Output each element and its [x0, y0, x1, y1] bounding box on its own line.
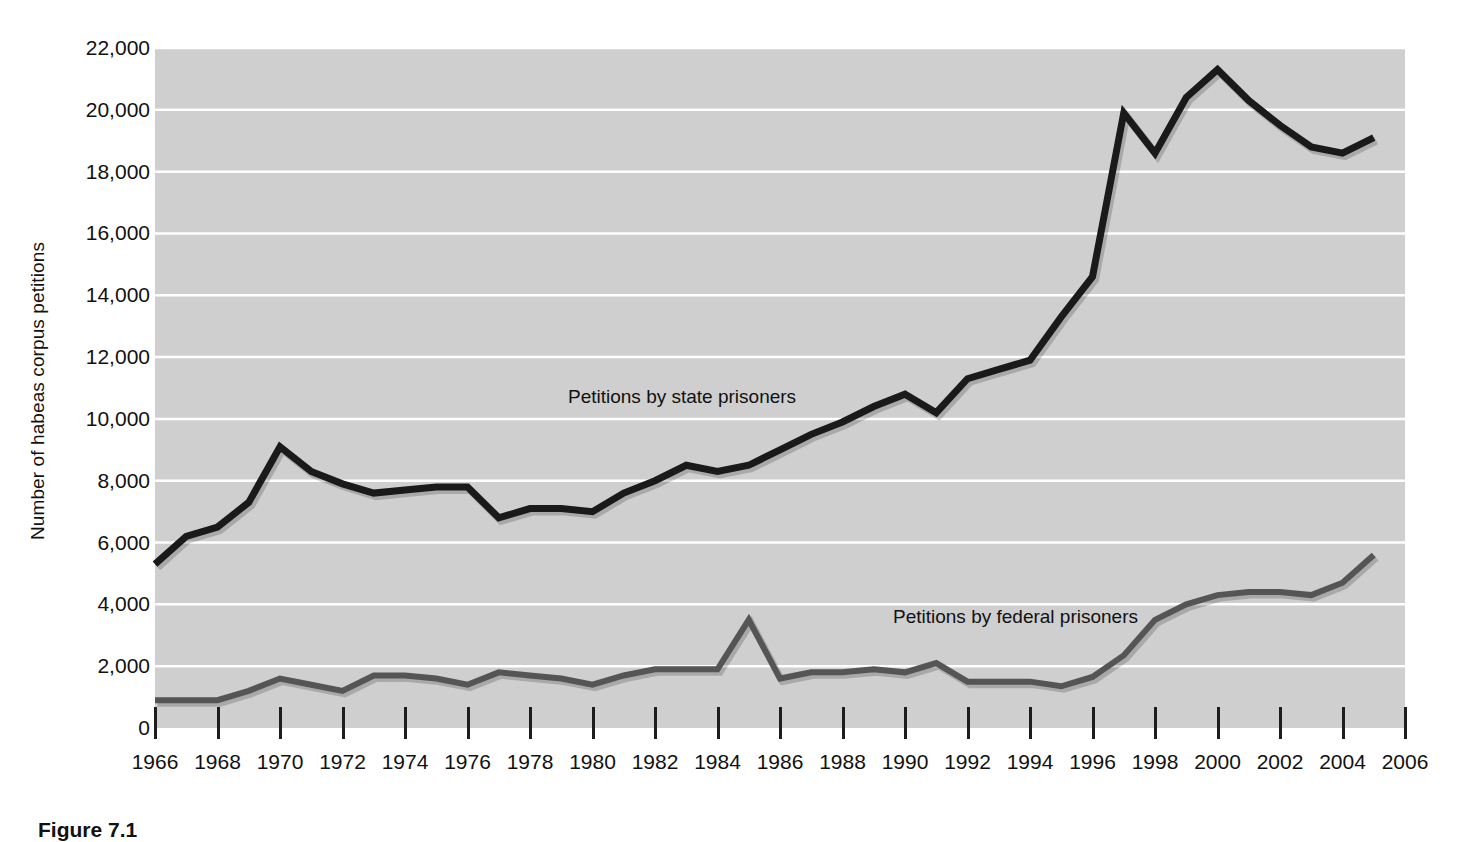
- x-axis-tick-label: 1980: [569, 750, 616, 774]
- x-axis-tick-label: 1990: [882, 750, 929, 774]
- x-axis-tick-label: 1982: [632, 750, 679, 774]
- x-axis-tick-label: 2002: [1257, 750, 1304, 774]
- x-axis-tick-label: 2006: [1382, 750, 1429, 774]
- x-axis-tick-label: 1986: [757, 750, 804, 774]
- x-axis-tick-label: 1976: [444, 750, 491, 774]
- y-axis-tick-label: 2,000: [10, 654, 150, 678]
- series-label-federal-prisoners: Petitions by federal prisoners: [893, 606, 1138, 628]
- x-axis-tick-label: 1996: [1069, 750, 1116, 774]
- y-axis-tick-label: 14,000: [10, 283, 150, 307]
- y-axis-tick-label: 8,000: [10, 469, 150, 493]
- y-axis-tick-label: 10,000: [10, 407, 150, 431]
- x-axis-baseline: [150, 728, 1408, 729]
- series-line-state-prisoners: [155, 70, 1374, 565]
- y-axis-tick-label: 16,000: [10, 221, 150, 245]
- x-axis-tick-label: 1974: [382, 750, 429, 774]
- series-line-federal-prisoners: [155, 555, 1374, 700]
- y-axis-tick-label: 0: [10, 716, 150, 740]
- series-line-shadow: [158, 73, 1377, 568]
- y-axis-tick-label: 20,000: [10, 98, 150, 122]
- x-axis-tick-label: 2004: [1319, 750, 1366, 774]
- x-axis-tick-label: 1988: [819, 750, 866, 774]
- x-axis-tick-label: 1994: [1007, 750, 1054, 774]
- y-axis-tick-label: 18,000: [10, 160, 150, 184]
- x-axis-tick-label: 1992: [944, 750, 991, 774]
- y-axis-tick-label: 4,000: [10, 592, 150, 616]
- x-axis-tick-label: 1984: [694, 750, 741, 774]
- x-axis-tick-label: 1972: [319, 750, 366, 774]
- x-axis-tick-label: 1998: [1132, 750, 1179, 774]
- x-axis-tick-label: 1968: [194, 750, 241, 774]
- y-axis-tick-labels: 02,0004,0006,0008,00010,00012,00014,0001…: [0, 0, 150, 760]
- y-axis-tick-label: 6,000: [10, 531, 150, 555]
- series-label-state-prisoners: Petitions by state prisoners: [568, 386, 796, 408]
- series-line-shadow: [158, 558, 1377, 703]
- x-axis-tick-label: 1970: [257, 750, 304, 774]
- y-axis-tick-label: 22,000: [10, 36, 150, 60]
- y-axis-tick-label: 12,000: [10, 345, 150, 369]
- x-axis-tick-label: 1978: [507, 750, 554, 774]
- x-axis-tick-label: 2000: [1194, 750, 1241, 774]
- gridlines: [155, 48, 1405, 666]
- figure-caption: Figure 7.1: [38, 818, 137, 842]
